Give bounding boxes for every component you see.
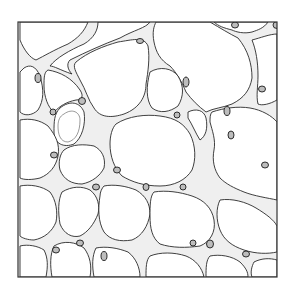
- nucleus: [190, 240, 196, 246]
- nucleus: [183, 77, 189, 87]
- nucleus: [35, 74, 41, 83]
- cell: [147, 69, 182, 112]
- cell-drawing: [0, 0, 301, 290]
- nucleus: [77, 240, 84, 246]
- nucleus: [262, 162, 269, 168]
- nucleus: [243, 251, 250, 257]
- nucleus: [207, 240, 214, 248]
- nucleus: [224, 107, 230, 116]
- cell: [251, 259, 277, 277]
- nucleus: [259, 86, 266, 92]
- nucleus: [114, 167, 121, 173]
- nucleus: [79, 98, 86, 105]
- nucleus: [143, 184, 149, 191]
- nucleus: [51, 152, 58, 158]
- nucleus: [93, 184, 100, 190]
- cell: [110, 115, 195, 186]
- nucleus: [53, 247, 60, 253]
- nucleus: [137, 39, 144, 44]
- nucleus: [174, 112, 180, 118]
- nucleus: [50, 109, 56, 115]
- cell: [20, 245, 47, 277]
- nucleus: [228, 131, 234, 139]
- nucleus: [101, 252, 107, 261]
- nucleus: [232, 22, 239, 28]
- parenchyma-illustration: [0, 0, 301, 290]
- nucleus: [180, 184, 186, 190]
